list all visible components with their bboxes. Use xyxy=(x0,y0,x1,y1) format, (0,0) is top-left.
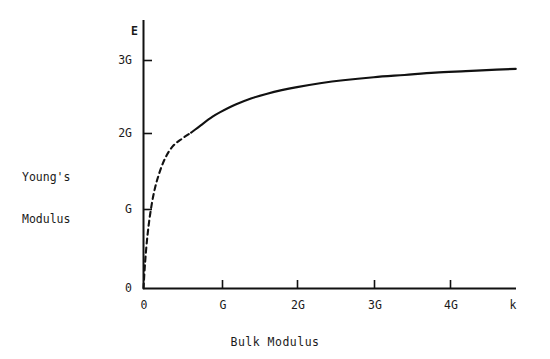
x-tick-label-4g: 4G xyxy=(436,298,466,312)
x-tick-label-g: G xyxy=(208,298,238,312)
x-axis-variable-label: k xyxy=(498,298,528,312)
y-tick-label-3g: 3G xyxy=(98,53,132,67)
x-tick-label-2g: 2G xyxy=(283,298,313,312)
y-axis-ticks xyxy=(144,61,153,210)
y-tick-label-2g: 2G xyxy=(98,126,132,140)
x-axis-title: Bulk Modulus xyxy=(0,335,550,349)
y-axis-title-line-1: Young's xyxy=(22,170,70,184)
chart-figure: E 3G 2G G 0 0 G 2G 3G 4G k Young's Modul… xyxy=(0,0,550,359)
x-tick-label-3g: 3G xyxy=(360,298,390,312)
x-axis-ticks xyxy=(223,280,451,289)
y-axis-title-line-2: Modulus xyxy=(22,212,70,226)
y-tick-label-0: 0 xyxy=(98,281,132,295)
chart-plot-area xyxy=(0,0,550,359)
y-axis-variable-label: E xyxy=(104,24,138,38)
data-curve-measured xyxy=(191,69,516,133)
y-axis-title: Young's Modulus xyxy=(22,142,70,254)
data-curve-extrapolated xyxy=(144,133,192,289)
x-tick-label-0: 0 xyxy=(129,298,159,312)
y-tick-label-g: G xyxy=(98,202,132,216)
